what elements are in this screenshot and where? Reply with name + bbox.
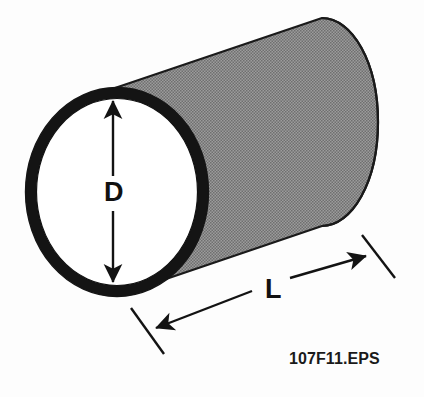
figure-caption: 107F11.EPS xyxy=(289,350,380,368)
length-label: L xyxy=(265,276,282,303)
length-arrow-lower-left xyxy=(156,291,252,328)
length-witness-line-far xyxy=(362,235,395,278)
figure-root: D L 107F11.EPS xyxy=(0,0,424,397)
length-witness-line-near xyxy=(131,308,164,354)
cylinder-body-group xyxy=(26,18,379,297)
length-arrow-upper-right xyxy=(290,256,366,278)
cylinder-illustration xyxy=(0,0,424,397)
diameter-label: D xyxy=(104,179,124,206)
